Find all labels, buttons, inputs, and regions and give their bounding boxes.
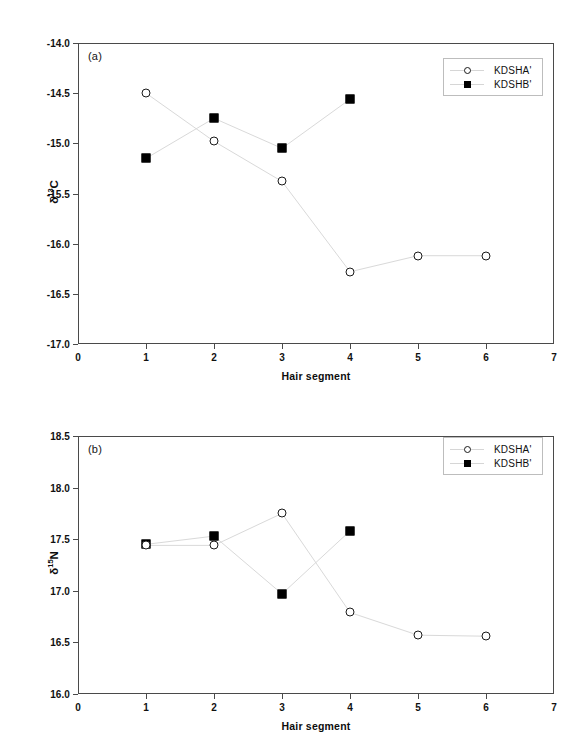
data-point-open-circle — [482, 632, 491, 641]
y-axis-title-a: δ13C — [46, 156, 60, 226]
y-axis-title-a-text: δ13C — [48, 180, 60, 204]
data-point-open-circle — [414, 631, 423, 640]
y-tick-mark — [73, 642, 78, 643]
data-point-open-circle — [142, 541, 151, 550]
y-tick-mark — [73, 43, 78, 44]
legend-label: KDSHA' — [494, 444, 532, 455]
data-point-open-circle — [278, 509, 287, 518]
chart-panel-b: (b) 18.518.017.517.016.516.0 01234567 δ1… — [0, 396, 584, 753]
legend-open-circle-icon — [450, 446, 484, 453]
legend-b: KDSHA'KDSHB' — [443, 437, 543, 475]
figure: (a) -14.0-14.5-15.0-15.5-16.0-16.5-17.0 … — [0, 0, 584, 753]
y-tick-mark — [73, 294, 78, 295]
data-point-filled-square — [210, 114, 219, 123]
panel-label-a: (a) — [88, 50, 102, 62]
legend-label: KDSHB' — [494, 79, 532, 90]
x-tick-label: 0 — [75, 702, 81, 713]
x-tick-mark — [486, 694, 487, 699]
y-tick-label: -15.5 — [8, 188, 70, 199]
y-tick-label: -14.5 — [8, 88, 70, 99]
y-tick-mark — [73, 539, 78, 540]
y-tick-mark — [73, 93, 78, 94]
x-tick-mark — [418, 694, 419, 699]
legend-marker — [464, 460, 471, 467]
x-tick-label: 5 — [415, 352, 421, 363]
x-tick-mark — [146, 694, 147, 699]
y-tick-label: 16.5 — [8, 637, 70, 648]
legend-filled-square-icon — [450, 460, 484, 467]
x-tick-label: 4 — [347, 702, 353, 713]
y-tick-mark — [73, 143, 78, 144]
data-point-filled-square — [142, 154, 151, 163]
y-tick-label: 18.0 — [8, 482, 70, 493]
x-tick-label: 4 — [347, 352, 353, 363]
x-axis-title-b: Hair segment — [282, 720, 351, 732]
x-tick-label: 2 — [211, 352, 217, 363]
x-tick-mark — [486, 344, 487, 349]
legend-filled-square-icon — [450, 81, 484, 88]
legend-label: KDSHA' — [494, 65, 532, 76]
legend-item: KDSHB' — [450, 77, 532, 91]
x-tick-label: 3 — [279, 352, 285, 363]
data-point-open-circle — [210, 137, 219, 146]
legend-marker — [464, 67, 471, 74]
legend-label: KDSHB' — [494, 458, 532, 469]
y-tick-mark — [73, 591, 78, 592]
legend-marker — [464, 446, 471, 453]
x-tick-label: 1 — [143, 702, 149, 713]
y-tick-label: -16.5 — [8, 288, 70, 299]
x-tick-mark — [350, 344, 351, 349]
legend-item: KDSHA' — [450, 442, 532, 456]
y-tick-mark — [73, 344, 78, 345]
y-tick-label: 18.5 — [8, 431, 70, 442]
data-point-open-circle — [346, 608, 355, 617]
x-tick-label: 5 — [415, 702, 421, 713]
y-tick-label: -15.0 — [8, 138, 70, 149]
x-tick-mark — [350, 694, 351, 699]
legend-item: KDSHA' — [450, 63, 532, 77]
y-tick-label: 17.5 — [8, 534, 70, 545]
x-tick-label: 7 — [551, 702, 557, 713]
x-tick-label: 7 — [551, 352, 557, 363]
x-tick-mark — [214, 694, 215, 699]
legend-marker — [464, 81, 471, 88]
y-tick-label: -17.0 — [8, 339, 70, 350]
data-point-open-circle — [414, 251, 423, 260]
data-point-open-circle — [346, 267, 355, 276]
data-point-open-circle — [278, 177, 287, 186]
data-point-filled-square — [278, 144, 287, 153]
data-point-filled-square — [210, 532, 219, 541]
x-tick-mark — [282, 344, 283, 349]
data-point-filled-square — [278, 589, 287, 598]
y-tick-mark — [73, 194, 78, 195]
y-tick-label: 16.0 — [8, 689, 70, 700]
x-tick-mark — [146, 344, 147, 349]
data-point-open-circle — [482, 251, 491, 260]
x-tick-mark — [282, 694, 283, 699]
data-point-open-circle — [210, 541, 219, 550]
legend-a: KDSHA'KDSHB' — [443, 58, 543, 96]
y-tick-label: 17.0 — [8, 585, 70, 596]
y-axis-title-b-text: δ15N — [48, 551, 60, 575]
y-tick-mark — [73, 244, 78, 245]
chart-panel-a: (a) -14.0-14.5-15.0-15.5-16.0-16.5-17.0 … — [0, 0, 584, 390]
data-point-open-circle — [142, 89, 151, 98]
y-tick-label: -14.0 — [8, 38, 70, 49]
legend-item: KDSHB' — [450, 456, 532, 470]
y-tick-mark — [73, 694, 78, 695]
x-tick-mark — [418, 344, 419, 349]
x-tick-label: 3 — [279, 702, 285, 713]
legend-open-circle-icon — [450, 67, 484, 74]
x-tick-label: 6 — [483, 702, 489, 713]
y-axis-title-b: δ15N — [46, 528, 60, 598]
x-tick-mark — [214, 344, 215, 349]
data-point-filled-square — [346, 95, 355, 104]
x-tick-label: 2 — [211, 702, 217, 713]
y-tick-label: -16.0 — [8, 238, 70, 249]
x-tick-label: 0 — [75, 352, 81, 363]
panel-label-b: (b) — [88, 443, 102, 455]
x-axis-title-a: Hair segment — [282, 370, 351, 382]
y-tick-mark — [73, 436, 78, 437]
x-tick-label: 1 — [143, 352, 149, 363]
y-tick-mark — [73, 488, 78, 489]
